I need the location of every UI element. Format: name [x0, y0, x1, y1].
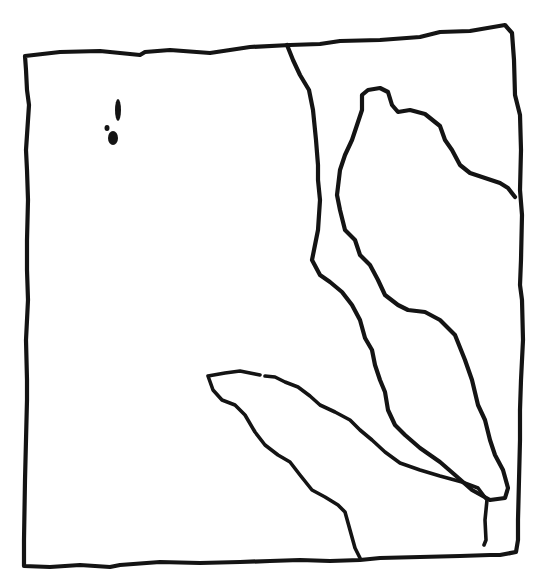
pencil-mark-lower — [108, 131, 118, 145]
sketch-canvas — [0, 0, 549, 580]
pencil-mark-upper — [115, 99, 121, 121]
paper-background — [0, 0, 549, 580]
pencil-dot — [105, 125, 110, 131]
